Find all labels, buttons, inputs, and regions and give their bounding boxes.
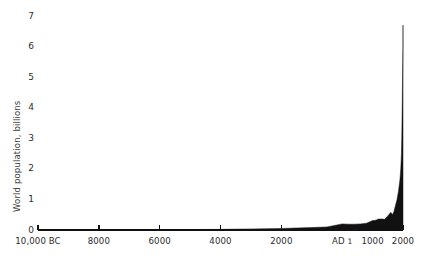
x-tick-mark — [98, 225, 99, 230]
chart-screenshot: World population, billions 76543210 10,0… — [0, 0, 421, 273]
x-tick-label: 6000 — [149, 236, 171, 246]
plot-area — [38, 16, 403, 230]
y-tick-label: 1 — [18, 195, 34, 204]
y-axis-ticks: 76543210 — [14, 0, 34, 273]
y-tick-label: 0 — [18, 226, 34, 235]
x-tick-mark — [281, 225, 282, 230]
y-tick-label: 3 — [18, 134, 34, 143]
x-tick-mark — [37, 225, 38, 230]
y-tick-label: 7 — [18, 12, 34, 21]
x-tick-label: 8000 — [88, 236, 110, 246]
x-tick-mark — [402, 225, 403, 230]
x-tick-mark — [159, 225, 160, 230]
x-tick-label: 1000 — [361, 236, 383, 246]
y-tick-label: 2 — [18, 164, 34, 173]
x-tick-label: 2000 — [270, 236, 292, 246]
y-tick-label: 5 — [18, 73, 34, 82]
population-area-series — [38, 16, 403, 230]
x-tick-mark — [341, 225, 342, 230]
y-tick-label: 4 — [18, 103, 34, 112]
y-tick-label: 6 — [18, 42, 34, 51]
x-tick-label: 2000 — [392, 236, 414, 246]
x-tick-label: AD 1 — [332, 236, 352, 246]
x-tick-label: 4000 — [209, 236, 231, 246]
x-tick-label: 10,000 BC — [15, 236, 60, 246]
x-tick-mark — [372, 225, 373, 230]
x-tick-mark — [220, 225, 221, 230]
